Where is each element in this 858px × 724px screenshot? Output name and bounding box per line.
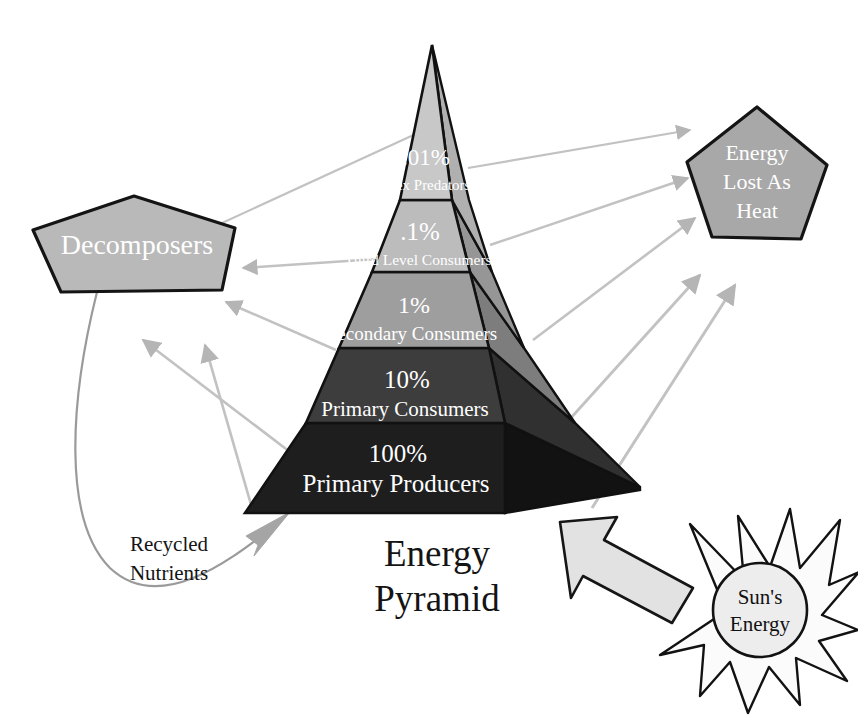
title-line1: Energy: [384, 533, 491, 574]
tier-2-percent: .1%: [400, 218, 440, 245]
recycled-nutrients-arrowhead: [246, 512, 290, 556]
sun-label-line2: Energy: [730, 612, 791, 636]
tier-4-name: Primary Consumers: [321, 397, 488, 421]
tier-1-percent: .01%: [402, 145, 450, 170]
recycled-nutrients-label-line1: Recycled: [130, 532, 209, 556]
heat-label-line3: Heat: [736, 198, 778, 223]
tier-5-percent: 100%: [369, 440, 427, 467]
decomposers-node[interactable]: Decomposers: [33, 196, 235, 292]
sun-disc[interactable]: [713, 563, 807, 657]
heat-label-line2: Lost As: [723, 169, 791, 194]
tier-4-percent: 10%: [384, 366, 430, 393]
tier-1-name: Apex Predators: [378, 177, 471, 193]
decomposer-arrow-3: [226, 302, 336, 350]
title-line2: Pyramid: [374, 578, 500, 619]
tier-2-name: Third Level Consumers: [344, 251, 491, 268]
sun-energy-node[interactable]: Sun's Energy: [660, 509, 858, 713]
tier-3-percent: 1%: [398, 292, 430, 318]
energy-pyramid-diagram: Recycled Nutrients .01% Apex Predators: [0, 0, 858, 724]
heat-arrow-4: [560, 275, 700, 430]
heat-arrow-3: [533, 218, 695, 340]
sun-energy-block-arrow: [560, 517, 693, 623]
recycled-nutrients-flow: Recycled Nutrients: [75, 292, 290, 586]
energy-lost-as-heat-node[interactable]: Energy Lost As Heat: [687, 107, 827, 239]
sun-label-line1: Sun's: [738, 585, 783, 609]
tier-5-name: Primary Producers: [303, 470, 490, 497]
decomposer-arrow-4: [143, 340, 290, 452]
heat-arrow-1: [468, 130, 690, 168]
pyramid: .01% Apex Predators .1% Third Level Cons…: [245, 45, 640, 513]
pyramid-tier-5-front: [245, 423, 505, 513]
heat-arrow-2: [490, 178, 688, 245]
page-title: Energy Pyramid: [374, 533, 500, 619]
tier-3-name: Secondary Consumers: [327, 323, 497, 344]
block-arrow-shape: [560, 517, 693, 623]
decomposers-label: Decomposers: [61, 229, 213, 260]
heat-label-line1: Energy: [725, 140, 788, 165]
diagram-canvas: Recycled Nutrients .01% Apex Predators: [0, 0, 858, 724]
decomposer-arrow-5: [205, 345, 252, 508]
recycled-nutrients-label-line2: Nutrients: [130, 561, 208, 585]
